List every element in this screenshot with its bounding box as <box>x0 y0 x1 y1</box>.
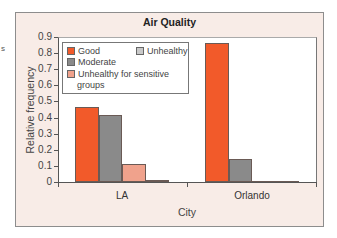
x-axis-tick <box>316 183 317 187</box>
y-tick <box>54 85 58 86</box>
y-tick <box>54 53 58 54</box>
legend-label-usg-line1: Unhealthy for sensitive <box>78 69 169 79</box>
y-tick <box>54 37 58 38</box>
legend-item-good: Good <box>67 46 100 56</box>
y-tick <box>54 69 58 70</box>
y-tick-label: 0 <box>28 177 52 187</box>
legend-swatch-unhealthy <box>136 47 144 55</box>
y-tick-label: 0.9 <box>28 32 52 42</box>
legend-label-good: Good <box>78 46 100 56</box>
x-axis-tick <box>58 183 59 187</box>
bar-orlando-moderate <box>229 159 253 182</box>
legend-label-moderate: Moderate <box>78 57 116 67</box>
bar-la-unhealthy-for-sensitive-groups <box>122 164 146 182</box>
y-tick-label: 0.1 <box>28 161 52 171</box>
legend-swatch-good <box>67 47 75 55</box>
y-tick <box>54 134 58 135</box>
x-axis-tick <box>187 183 188 187</box>
x-category-la: LA <box>82 190 162 201</box>
y-tick <box>54 101 58 102</box>
x-axis-title: City <box>147 206 227 218</box>
stray-text: s <box>1 44 5 53</box>
bar-orlando-good <box>205 43 229 182</box>
legend-item-moderate: Moderate <box>67 57 116 67</box>
legend-swatch-moderate <box>67 58 75 66</box>
y-tick-label: 0.8 <box>28 48 52 58</box>
legend-item-unhealthy: Unhealthy <box>136 46 188 56</box>
legend-swatch-usg <box>67 70 75 78</box>
y-tick <box>54 118 58 119</box>
x-category-orlando: Orlando <box>212 190 292 201</box>
bar-la-moderate <box>99 115 123 182</box>
legend-item-usg: Unhealthy for sensitive <box>67 69 169 79</box>
y-tick <box>54 150 58 151</box>
y-axis-title: Relative frequency <box>24 60 36 160</box>
chart-title: Air Quality <box>15 16 324 28</box>
y-tick <box>54 166 58 167</box>
legend-label-unhealthy: Unhealthy <box>147 46 188 56</box>
legend-label-usg-line2: groups <box>77 80 105 90</box>
legend: Good Unhealthy Moderate Unhealthy for se… <box>62 42 189 94</box>
bar-la-good <box>75 107 99 182</box>
